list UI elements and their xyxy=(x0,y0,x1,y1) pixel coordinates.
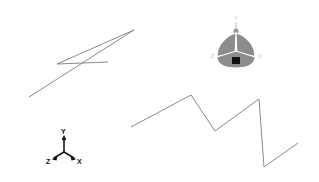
triad-x-arrowhead xyxy=(71,156,77,161)
3d-modeling-viewport[interactable]: Y Z X Y X Z xyxy=(0,0,319,182)
triad-z-label: Z xyxy=(46,158,51,165)
triad-y-arrowhead xyxy=(62,135,67,140)
triad-x-label: X xyxy=(77,158,82,165)
triad-y-label: Y xyxy=(61,128,66,135)
triad-z-arrowhead xyxy=(52,156,58,161)
axis-triad-indicator: Y X Z xyxy=(0,0,319,182)
